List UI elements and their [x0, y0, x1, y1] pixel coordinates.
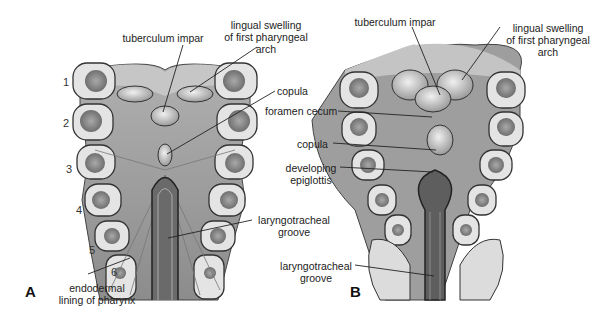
label-b-laryngotracheal-groove: laryngotracheal groove	[275, 260, 357, 284]
label-b-epi-line1: developing	[282, 162, 340, 174]
figure-stage: tuberculum impar lingual swelling of fir…	[0, 0, 614, 319]
label-b-laryngo-line2: groove	[275, 272, 357, 284]
panel-label-a: A	[25, 283, 36, 300]
label-b-foramen-cecum: foramen cecum	[265, 105, 337, 117]
label-b-tuberculum-impar: tuberculum impar	[340, 16, 450, 28]
label-b-lingual-swelling: lingual swelling of first pharyngeal arc…	[498, 22, 598, 58]
label-a-laryngo-line1: laryngotracheal	[254, 214, 334, 226]
label-b-laryngo-line1: laryngotracheal	[275, 260, 357, 272]
arch-number-3: 3	[66, 163, 72, 175]
label-b-lingual-line3: arch	[498, 46, 598, 58]
label-b-lingual-line1: lingual swelling	[498, 22, 598, 34]
arch-number-4: 4	[76, 204, 82, 216]
arch-number-1: 1	[63, 76, 69, 88]
label-a-lingual-line3: arch	[218, 43, 314, 55]
label-b-epi-line2: epiglottis	[282, 174, 340, 186]
panel-a-drawing	[73, 63, 257, 300]
panel-label-b: B	[350, 283, 361, 300]
label-a-endodermal-lining: endodermal lining of pharynx	[52, 282, 142, 306]
label-a-endo-line2: lining of pharynx	[52, 294, 142, 306]
label-a-lingual-line1: lingual swelling	[218, 19, 314, 31]
label-a-laryngotracheal-groove: laryngotracheal groove	[254, 214, 334, 238]
label-a-lingual-line2: of first pharyngeal	[218, 31, 314, 43]
label-a-tuberculum-impar: tuberculum impar	[108, 32, 218, 44]
label-b-lingual-line2: of first pharyngeal	[498, 34, 598, 46]
arch-number-6: 6	[111, 266, 117, 278]
label-b-developing-epiglottis: developing epiglottis	[282, 162, 340, 186]
label-a-endo-line1: endodermal	[52, 282, 142, 294]
label-a-lingual-swelling: lingual swelling of first pharyngeal arc…	[218, 19, 314, 55]
label-b-copula: copula	[297, 138, 328, 150]
label-a-copula: copula	[277, 85, 308, 97]
arch-number-2: 2	[63, 117, 69, 129]
label-a-laryngo-line2: groove	[254, 226, 334, 238]
arch-number-5: 5	[89, 244, 95, 256]
